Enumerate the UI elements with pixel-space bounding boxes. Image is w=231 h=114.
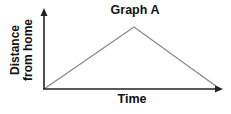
x-axis-arrow-icon — [215, 86, 223, 93]
x-axis-label: Time — [112, 92, 152, 106]
distance-line — [44, 27, 220, 89]
y-axis-arrow-icon — [41, 8, 48, 16]
